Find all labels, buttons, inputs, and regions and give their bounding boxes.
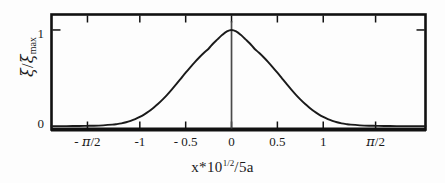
x-tick-label-6: π/2 (366, 134, 385, 150)
curve-xi-over-xi-max (52, 30, 426, 126)
figure-container: ξ/ξmax 1 0 - π/2-1- 0.500.51π/2 x*101/2/… (0, 0, 445, 183)
y-label-denominator: ξ (18, 54, 37, 63)
plot-frame (51, 15, 426, 130)
x-tick-label-2: - 0.5 (174, 134, 198, 150)
x-label-denominator: 5a (239, 159, 254, 175)
axes-box (52, 15, 426, 130)
y-axis-label: ξ/ξmax (18, 7, 38, 107)
x-label-operator: * (199, 159, 207, 175)
x-label-base: 10 (207, 159, 223, 175)
x-tick-label-5: 1 (320, 134, 327, 150)
x-tick-label-3: 0 (228, 134, 235, 150)
x-label-variable: x (191, 159, 199, 175)
y-label-divider: / (19, 63, 36, 68)
y-tick-label-0: 0 (24, 116, 44, 132)
x-label-exponent: 1/2 (223, 158, 235, 168)
x-tick-label-4: 0.5 (269, 134, 285, 150)
plot-canvas (0, 0, 445, 183)
y-tick-label-1: 1 (24, 26, 44, 42)
x-tick-label-1: -1 (134, 134, 145, 150)
x-axis-label: x*101/2/5a (0, 158, 445, 176)
x-tick-label-0: - π/2 (74, 134, 100, 150)
y-label-numerator: ξ (18, 68, 37, 77)
